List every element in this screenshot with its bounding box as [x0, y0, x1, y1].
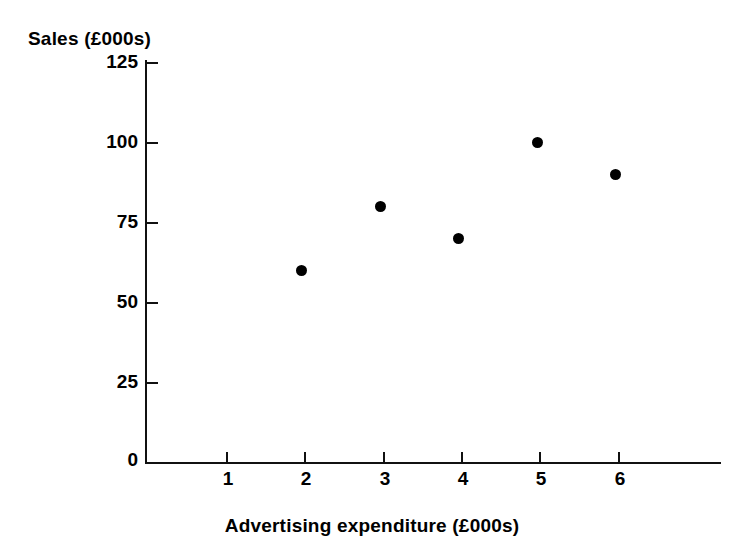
- y-tick-75: [147, 222, 158, 224]
- y-tick-125: [147, 62, 158, 64]
- data-point: [375, 201, 386, 212]
- y-tick-label-125: 125: [90, 52, 138, 71]
- y-tick-label-50: 50: [90, 292, 138, 311]
- x-tick-2: [304, 452, 306, 463]
- x-axis-title: Advertising expenditure (£000s): [0, 515, 744, 537]
- scatter-plot-figure: Sales (£000s) 125 100 75 50 25 0: [0, 0, 744, 560]
- y-tick-label-75: 75: [90, 212, 138, 231]
- plot-area: 125 100 75 50 25 0 1 2 3 4 5 6: [0, 0, 744, 560]
- x-tick-4: [461, 452, 463, 463]
- x-tick-label-1: 1: [208, 469, 248, 488]
- x-tick-1: [226, 452, 228, 463]
- x-tick-3: [383, 452, 385, 463]
- y-tick-label-100: 100: [90, 132, 138, 151]
- x-axis-line: [145, 462, 721, 464]
- x-tick-5: [539, 452, 541, 463]
- x-tick-6: [618, 452, 620, 463]
- y-tick-50: [147, 302, 158, 304]
- y-tick-label-25: 25: [90, 372, 138, 391]
- data-point: [453, 233, 464, 244]
- y-tick-label-0: 0: [90, 450, 138, 469]
- data-point: [532, 137, 543, 148]
- x-tick-label-3: 3: [365, 469, 405, 488]
- x-tick-label-6: 6: [600, 469, 640, 488]
- data-point: [296, 265, 307, 276]
- x-tick-label-4: 4: [443, 469, 483, 488]
- x-tick-label-2: 2: [286, 469, 326, 488]
- x-tick-label-5: 5: [521, 469, 561, 488]
- y-tick-25: [147, 382, 158, 384]
- data-point: [610, 169, 621, 180]
- y-axis-line: [145, 60, 147, 464]
- y-tick-100: [147, 142, 158, 144]
